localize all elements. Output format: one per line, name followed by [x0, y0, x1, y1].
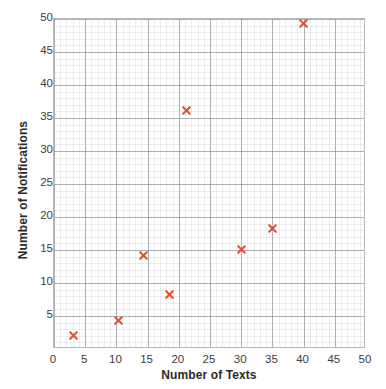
- x-tick-label: 5: [81, 354, 87, 366]
- x-tick-label: 40: [296, 354, 309, 366]
- data-point: [165, 290, 174, 299]
- y-tick-label: 45: [40, 45, 53, 57]
- x-tick-label: 30: [234, 354, 247, 366]
- y-tick-label: 30: [40, 144, 53, 156]
- y-tick-label: 15: [40, 243, 53, 255]
- x-tick-label: 45: [327, 354, 340, 366]
- x-tick-label: 10: [109, 354, 122, 366]
- y-axis-title: Number of Notifications: [16, 90, 30, 290]
- data-point: [69, 331, 78, 340]
- y-tick-label: 10: [40, 276, 53, 288]
- y-tick-label: 35: [40, 111, 53, 123]
- data-point: [299, 19, 308, 28]
- y-tick-label: 20: [40, 210, 53, 222]
- x-tick-label: 20: [171, 354, 184, 366]
- scatter-plot-figure: 5101520253035404550 05101520253035404550…: [0, 0, 386, 389]
- y-tick-label: 40: [40, 78, 53, 90]
- data-points-layer: [54, 19, 364, 347]
- data-point: [182, 106, 191, 115]
- x-tick-label: 25: [203, 354, 216, 366]
- data-point: [237, 245, 246, 254]
- y-tick-label: 50: [40, 12, 53, 24]
- data-point: [268, 224, 277, 233]
- x-tick-label: 0: [50, 354, 56, 366]
- x-tick-label: 35: [265, 354, 278, 366]
- y-tick-label: 5: [47, 309, 53, 321]
- x-tick-label: 50: [359, 354, 372, 366]
- data-point: [139, 251, 148, 260]
- plot-area: [53, 18, 365, 348]
- y-tick-label: 25: [40, 177, 53, 189]
- data-point: [114, 316, 123, 325]
- x-tick-label: 15: [140, 354, 153, 366]
- x-axis-title: Number of Texts: [53, 368, 365, 382]
